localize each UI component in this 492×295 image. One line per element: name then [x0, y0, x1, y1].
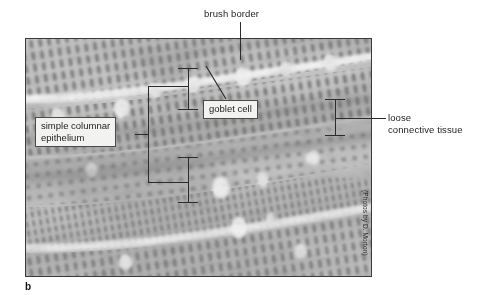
label-loose-connective-tissue: loose connective tissue: [388, 112, 463, 135]
figure-part-letter: b: [25, 281, 31, 292]
figure-panel: brush border goblet cell simple columnar…: [0, 0, 492, 295]
photo-credit: (Photos by D. Morton): [362, 190, 369, 256]
label-goblet-cell: goblet cell: [203, 100, 258, 119]
label-epithelium-line1: simple columnar: [41, 120, 110, 132]
label-loose-tissue-line2: connective tissue: [388, 124, 463, 136]
micrograph-image: [25, 38, 372, 277]
tissue-texture: [26, 39, 371, 276]
label-brush-border: brush border: [204, 8, 259, 20]
label-simple-columnar-epithelium: simple columnar epithelium: [35, 117, 116, 147]
label-epithelium-line2: epithelium: [41, 132, 110, 144]
label-loose-tissue-line1: loose: [388, 112, 463, 124]
